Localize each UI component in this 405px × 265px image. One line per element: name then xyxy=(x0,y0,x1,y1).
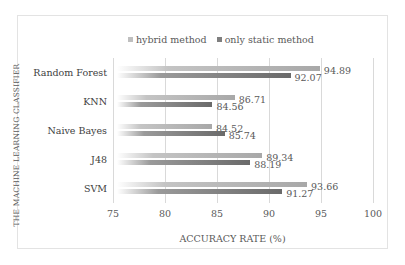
value-label-static: 91.27 xyxy=(286,188,313,199)
x-tick-label: 75 xyxy=(107,208,119,219)
category-label: J48 xyxy=(91,154,107,165)
category-label: Naive Bayes xyxy=(47,125,107,136)
y-axis-title: THE MACHINE LEARNING CLASSIFIER xyxy=(9,60,23,230)
category-label: Random Forest xyxy=(33,67,107,78)
x-tick-label: 85 xyxy=(211,208,223,219)
bar-static xyxy=(117,131,225,136)
value-label-static: 88.19 xyxy=(254,159,281,170)
legend: hybrid method only static method xyxy=(128,34,314,45)
legend-label-static: only static method xyxy=(225,34,314,45)
value-label-static: 84.56 xyxy=(216,101,243,112)
legend-label-hybrid: hybrid method xyxy=(136,34,207,45)
x-axis-title: ACCURACY RATE (%) xyxy=(0,233,405,244)
gridline xyxy=(373,58,374,203)
bar-static xyxy=(117,73,291,78)
x-tick-label: 95 xyxy=(315,208,327,219)
bar-hybrid xyxy=(117,124,212,129)
gridline xyxy=(113,58,114,203)
x-tick-label: 90 xyxy=(263,208,275,219)
value-label-hybrid: 93.66 xyxy=(311,181,338,192)
legend-item-static: only static method xyxy=(217,34,314,45)
legend-item-hybrid: hybrid method xyxy=(128,34,207,45)
value-label-hybrid: 94.89 xyxy=(324,65,351,76)
bar-hybrid xyxy=(117,153,262,158)
bar-hybrid xyxy=(117,66,320,71)
legend-swatch-hybrid xyxy=(128,37,133,42)
bar-hybrid xyxy=(117,182,307,187)
bar-hybrid xyxy=(117,95,235,100)
category-label: KNN xyxy=(83,96,107,107)
bar-static xyxy=(117,189,282,194)
bar-static xyxy=(117,102,212,107)
value-label-static: 85.74 xyxy=(229,130,256,141)
value-label-static: 92.07 xyxy=(295,72,322,83)
x-tick-label: 80 xyxy=(159,208,171,219)
bar-static xyxy=(117,160,250,165)
legend-swatch-static xyxy=(217,37,222,42)
x-tick-label: 100 xyxy=(364,208,382,219)
category-label: SVM xyxy=(84,183,107,194)
y-axis-title-text: THE MACHINE LEARNING CLASSIFIER xyxy=(12,64,21,227)
